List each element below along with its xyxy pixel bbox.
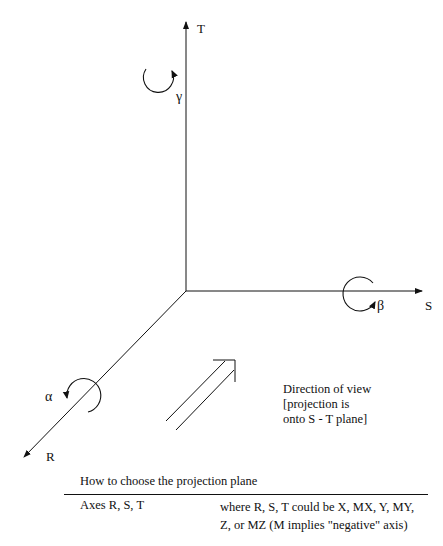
description-line: where R, S, T could be X, MX, Y, MY, (220, 498, 435, 516)
view-direction-arrow-icon (166, 360, 235, 430)
description-line: Z, or MZ (M implies "negative" axis) (220, 516, 435, 534)
r-axis-label: R (46, 450, 55, 464)
view-direction-note: Direction of view [projection is onto S … (283, 382, 371, 427)
gamma-rotation-icon (143, 69, 173, 92)
table-rule (64, 494, 428, 495)
t-axis-label: T (197, 22, 205, 36)
gamma-label: γ (176, 90, 182, 104)
axes-diagram (0, 0, 443, 546)
table-cell-description: where R, S, T could be X, MX, Y, MY, Z, … (220, 498, 435, 534)
r-axis (24, 291, 186, 457)
table-cell-axes: Axes R, S, T (80, 498, 144, 513)
beta-label: β (377, 299, 384, 313)
table-caption: How to choose the projection plane (80, 474, 257, 489)
s-axis-label: S (425, 299, 432, 313)
beta-rotation-icon (343, 277, 375, 311)
view-note-line: Direction of view (283, 382, 371, 397)
alpha-label: α (45, 390, 52, 404)
view-note-line: onto S - T plane] (283, 412, 371, 427)
view-note-line: [projection is (283, 397, 371, 412)
